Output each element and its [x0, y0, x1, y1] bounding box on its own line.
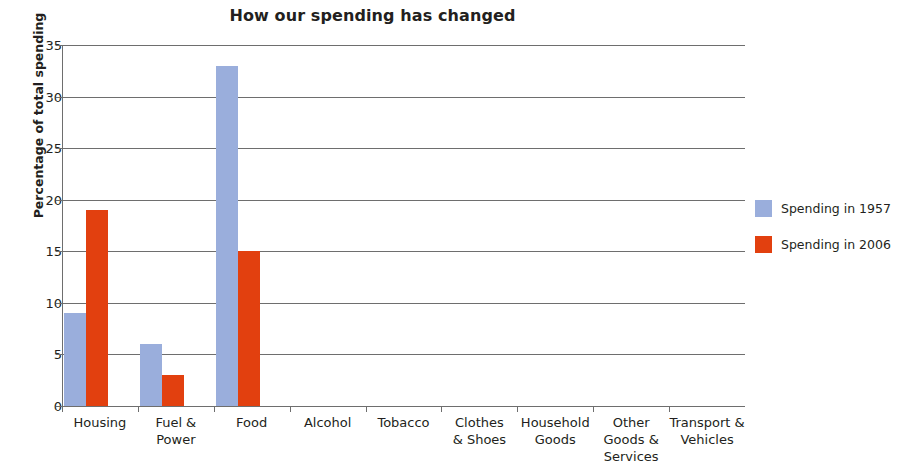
y-axis-tick-group: 05101520253035 — [0, 0, 62, 471]
legend-swatch-1957 — [755, 200, 772, 217]
bar-2-series-1 — [238, 251, 260, 406]
x-axis-tick-mark — [214, 406, 215, 412]
legend-item-label: Spending in 1957 — [781, 201, 891, 216]
x-axis-tick-mark — [290, 406, 291, 412]
legend-item: Spending in 1957 — [755, 190, 900, 226]
y-axis-tick-label: 20 — [6, 192, 62, 207]
chart-title: How our spending has changed — [0, 6, 745, 25]
y-axis-tick-label: 5 — [6, 347, 62, 362]
y-axis-tick-label: 15 — [6, 244, 62, 259]
bars-layer — [62, 45, 745, 406]
x-axis-category-label: Transport &Vehicles — [660, 414, 754, 448]
bar-0-series-0 — [64, 313, 86, 406]
x-axis-tick-mark — [366, 406, 367, 412]
x-axis-tick-mark — [593, 406, 594, 412]
x-axis-category-label-line: Transport & — [660, 414, 754, 431]
y-axis-line — [62, 45, 63, 407]
x-axis-tick-mark — [62, 406, 63, 412]
x-axis-tick-mark — [441, 406, 442, 412]
x-axis-category-label-line: Vehicles — [660, 431, 754, 448]
x-axis-tick-group: HousingFuel &PowerFoodAlcoholTobaccoClot… — [62, 406, 745, 471]
bar-0-series-1 — [86, 210, 108, 406]
bar-1-series-1 — [162, 375, 184, 406]
legend-item-label: Spending in 2006 — [781, 237, 891, 252]
legend-swatch-2006 — [755, 236, 772, 253]
x-axis-tick-mark — [138, 406, 139, 412]
x-axis-tick-mark — [517, 406, 518, 412]
x-axis-category-label-line: Power — [129, 431, 223, 448]
x-axis-category-label-line: Services — [584, 448, 678, 465]
y-axis-tick-label: 0 — [6, 399, 62, 414]
y-axis-tick-label: 10 — [6, 295, 62, 310]
legend-item: Spending in 2006 — [755, 226, 900, 262]
x-axis-tick-mark — [669, 406, 670, 412]
y-axis-tick-label: 35 — [6, 38, 62, 53]
y-axis-tick-label: 30 — [6, 89, 62, 104]
y-axis-tick-label: 25 — [6, 141, 62, 156]
chart-legend: Spending in 1957Spending in 2006 — [755, 190, 900, 262]
bar-1-series-0 — [140, 344, 162, 406]
bar-2-series-0 — [216, 66, 238, 406]
